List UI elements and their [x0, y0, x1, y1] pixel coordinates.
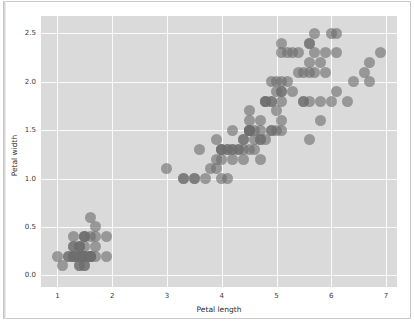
- data-point: [304, 134, 315, 145]
- data-point: [101, 231, 112, 242]
- gridline-horizontal: [41, 130, 397, 131]
- data-point: [315, 96, 326, 107]
- data-point: [194, 144, 205, 155]
- data-point: [52, 251, 63, 262]
- data-point: [255, 154, 266, 165]
- data-point: [326, 96, 337, 107]
- data-point: [342, 96, 353, 107]
- data-point: [298, 96, 309, 107]
- data-point: [331, 47, 342, 58]
- data-point: [315, 57, 326, 68]
- y-tick-label: 0.0: [16, 271, 36, 279]
- data-point: [260, 134, 271, 145]
- x-tick-label: 7: [384, 292, 388, 300]
- x-tick-label: 4: [220, 292, 224, 300]
- y-tick-label: 2.0: [16, 78, 36, 86]
- data-point: [238, 154, 249, 165]
- data-point: [244, 105, 255, 116]
- data-point: [178, 173, 189, 184]
- data-point: [161, 163, 172, 174]
- gridline-vertical: [167, 16, 168, 287]
- data-point: [304, 38, 315, 49]
- y-tick-label: 2.5: [16, 29, 36, 37]
- data-point: [276, 96, 287, 107]
- scatter-plot-axes: [41, 16, 397, 287]
- data-point: [364, 57, 375, 68]
- gridline-horizontal: [41, 33, 397, 34]
- data-point: [227, 125, 238, 136]
- data-point: [331, 86, 342, 97]
- data-point: [375, 47, 386, 58]
- data-point: [315, 115, 326, 126]
- chart-figure: 1234567 0.00.51.01.52.02.5 Petal length …: [0, 0, 414, 324]
- gridline-vertical: [57, 16, 58, 287]
- data-point: [287, 86, 298, 97]
- data-point: [364, 76, 375, 87]
- data-point: [293, 47, 304, 58]
- data-point: [309, 28, 320, 39]
- data-point: [101, 251, 112, 262]
- data-point: [74, 260, 85, 271]
- data-point: [233, 144, 244, 155]
- y-axis-title: Petal width: [10, 116, 19, 196]
- data-point: [189, 173, 200, 184]
- data-point: [260, 96, 271, 107]
- x-axis-title: Petal length: [41, 305, 397, 314]
- data-point: [57, 260, 68, 271]
- data-point: [244, 115, 255, 126]
- data-point: [200, 173, 211, 184]
- gridline-vertical: [386, 16, 387, 287]
- x-tick-label: 3: [165, 292, 169, 300]
- data-point: [276, 125, 287, 136]
- data-point: [320, 67, 331, 78]
- y-tick-label: 0.5: [16, 223, 36, 231]
- data-point: [304, 57, 315, 68]
- gridline-vertical: [112, 16, 113, 287]
- x-tick-label: 5: [274, 292, 278, 300]
- data-point: [222, 144, 233, 155]
- data-point: [348, 76, 359, 87]
- y-tick-label: 1.0: [16, 175, 36, 183]
- gridline-horizontal: [41, 82, 397, 83]
- x-tick-label: 2: [110, 292, 114, 300]
- data-point: [293, 67, 304, 78]
- data-point: [222, 173, 233, 184]
- x-tick-label: 6: [329, 292, 333, 300]
- data-point: [320, 47, 331, 58]
- gridline-horizontal: [41, 275, 397, 276]
- data-point: [74, 251, 85, 262]
- y-tick-label: 1.5: [16, 126, 36, 134]
- data-point: [331, 28, 342, 39]
- data-point: [227, 154, 238, 165]
- data-point: [304, 67, 315, 78]
- data-point: [216, 154, 227, 165]
- data-point: [85, 212, 96, 223]
- figure-left-gutter: [3, 1, 6, 319]
- x-tick-label: 1: [55, 292, 59, 300]
